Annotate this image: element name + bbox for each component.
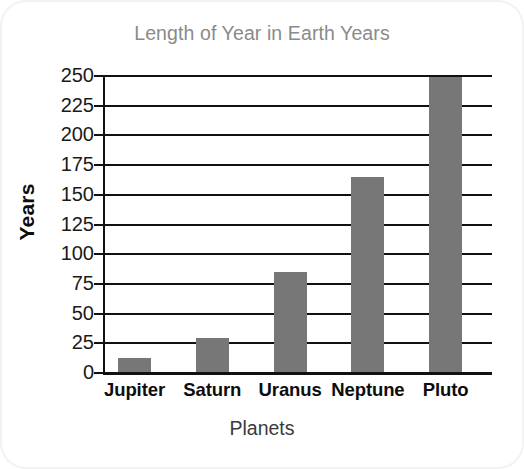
gridline [103, 372, 492, 375]
y-axis-tick-label: 125 [34, 214, 94, 234]
y-axis-tick-label: 200 [34, 124, 94, 144]
y-axis-tick-label: 150 [34, 184, 94, 204]
y-axis-tick-label: 250 [34, 65, 94, 85]
y-axis-tick [94, 253, 103, 255]
y-axis-tick [94, 134, 103, 136]
x-axis-tick-label: Pluto [386, 379, 506, 401]
bar-jupiter[interactable] [118, 358, 151, 372]
y-axis-tick [94, 164, 103, 166]
y-axis-tick-label: 175 [34, 154, 94, 174]
y-axis-tick-label: 225 [34, 95, 94, 115]
y-axis-tick [94, 342, 103, 344]
y-axis-tick-label: 100 [34, 243, 94, 263]
y-axis-tick [94, 105, 103, 107]
y-axis-tick-label: 25 [34, 332, 94, 352]
y-axis-tick [94, 75, 103, 77]
x-axis-title: Planets [0, 417, 524, 440]
bar-pluto[interactable] [429, 77, 462, 372]
y-axis-tick [94, 224, 103, 226]
y-axis-tick [94, 313, 103, 315]
y-axis-tick [94, 194, 103, 196]
bar-saturn[interactable] [196, 338, 229, 372]
bar-neptune[interactable] [351, 177, 384, 372]
chart-card: Length of Year in Earth Years Years 0255… [0, 0, 524, 469]
y-axis-tick-label: 75 [34, 273, 94, 293]
y-axis-tick [94, 283, 103, 285]
bar-uranus[interactable] [274, 272, 307, 372]
bar-chart: Length of Year in Earth Years Years 0255… [0, 0, 524, 469]
plot-area [103, 75, 492, 372]
y-axis-tick [94, 372, 103, 374]
y-axis-tick-label: 50 [34, 303, 94, 323]
